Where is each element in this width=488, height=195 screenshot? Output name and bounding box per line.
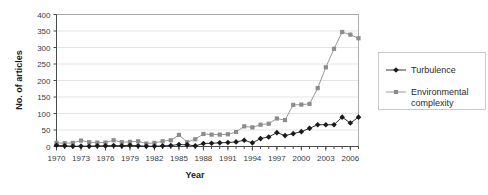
x-tick-label: 2006 <box>341 154 359 163</box>
data-point <box>356 36 360 40</box>
data-point <box>267 122 271 126</box>
data-point <box>258 123 262 127</box>
x-tick-label: 1979 <box>121 154 139 163</box>
data-point <box>316 86 320 90</box>
x-tick-label: 1973 <box>72 154 90 163</box>
data-point <box>242 124 246 128</box>
data-point <box>79 138 83 142</box>
y-tick-label: 350 <box>37 27 51 36</box>
x-tick-label: 2000 <box>292 154 310 163</box>
y-tick-label: 250 <box>37 60 51 69</box>
y-axis-title: No. of articles <box>14 50 24 110</box>
data-point <box>394 90 398 94</box>
y-tick-label: 150 <box>37 93 51 102</box>
x-axis-title: Year <box>185 170 205 180</box>
data-point <box>324 65 328 69</box>
data-point <box>340 30 344 34</box>
x-tick-label: 1976 <box>97 154 115 163</box>
legend-label: Turbulence <box>411 65 456 75</box>
y-tick-label: 300 <box>37 44 51 53</box>
y-tick-label: 100 <box>37 110 51 119</box>
data-point <box>112 138 116 142</box>
data-point <box>177 133 181 137</box>
y-tick-label: 50 <box>42 126 51 135</box>
data-point <box>348 33 352 37</box>
data-point <box>169 138 173 142</box>
data-point <box>250 125 254 129</box>
y-tick-label: 0 <box>46 143 51 152</box>
data-point <box>299 102 303 106</box>
data-point <box>201 132 205 136</box>
legend-label-line2: complexity <box>411 98 454 108</box>
x-tick-label: 2003 <box>317 154 335 163</box>
line-chart: 050100150200250300350400 197019731976197… <box>0 0 488 195</box>
x-tick-label: 1994 <box>243 154 261 163</box>
data-point <box>193 137 197 141</box>
data-point <box>161 139 165 143</box>
data-point <box>226 132 230 136</box>
data-point <box>332 47 336 51</box>
legend-label: Environmental <box>411 87 469 97</box>
x-tick-label: 1991 <box>219 154 237 163</box>
data-point <box>283 118 287 122</box>
data-point <box>291 103 295 107</box>
data-point <box>218 133 222 137</box>
y-tick-label: 400 <box>37 11 51 20</box>
x-tick-label: 1970 <box>48 154 66 163</box>
y-tick-label: 200 <box>37 77 51 86</box>
chart-legend: TurbulenceEnvironmentalcomplexity <box>379 53 486 110</box>
x-tick-label: 1988 <box>195 154 213 163</box>
x-tick-label: 1982 <box>146 154 164 163</box>
data-point <box>136 139 140 143</box>
x-tick-label: 1985 <box>170 154 188 163</box>
data-point <box>234 130 238 134</box>
data-point <box>209 133 213 137</box>
data-point <box>307 102 311 106</box>
chart-figure: 050100150200250300350400 197019731976197… <box>0 0 488 195</box>
x-tick-label: 1997 <box>268 154 286 163</box>
data-point <box>275 116 279 120</box>
